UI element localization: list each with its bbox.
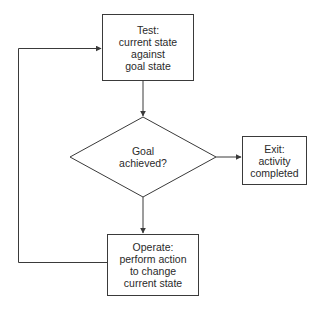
test-label-line: current state <box>119 36 177 48</box>
test-label-line: Test: <box>137 24 159 36</box>
exit-label-line: completed <box>250 167 298 179</box>
exit-label: Exit: activity completed <box>242 136 307 185</box>
test-label-line: goal state <box>125 60 171 72</box>
decision-label-line: achieved? <box>119 157 167 169</box>
test-label-line: against <box>131 48 165 60</box>
operate-label-line: Operate: <box>133 241 174 253</box>
decision-label: Goal achieved? <box>93 140 193 174</box>
exit-label-line: activity <box>258 155 290 167</box>
operate-label-line: perform action <box>119 253 186 265</box>
exit-label-line: Exit: <box>264 143 284 155</box>
decision-label-line: Goal <box>132 145 154 157</box>
operate-label-line: current state <box>124 277 182 289</box>
test-label: Test: current state against goal state <box>102 14 194 81</box>
operate-label: Operate: perform action to change curren… <box>107 234 199 296</box>
operate-label-line: to change <box>130 265 176 277</box>
